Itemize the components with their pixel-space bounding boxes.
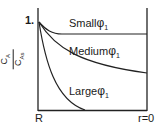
x-tick-R: R xyxy=(35,112,43,124)
y-den: C xyxy=(13,60,23,67)
y-tick-one: 1. xyxy=(25,14,34,26)
y-axis-label: CA CAs xyxy=(0,49,26,69)
medium-phi-label: Mediumφ1 xyxy=(69,45,120,62)
x-tick-r0: r=0 xyxy=(138,112,154,124)
large-phi-label: Largeφ1 xyxy=(69,85,109,102)
small-phi-label: Smallφ1 xyxy=(69,17,108,34)
y-num-sub: A xyxy=(5,54,11,58)
y-num: C xyxy=(0,58,9,65)
y-den-sub: As xyxy=(18,53,24,60)
